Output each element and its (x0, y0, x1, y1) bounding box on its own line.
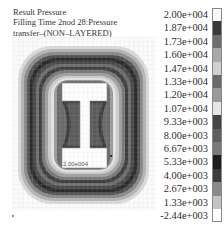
legend-swatch (212, 209, 222, 222)
legend-swatch (212, 88, 222, 101)
legend-swatch (212, 35, 222, 48)
legend-row: 9.33e+003 (144, 115, 224, 128)
legend-row: 6.67e+003 (144, 142, 224, 155)
legend-swatch (212, 142, 222, 155)
legend-row: 1.87e+004 (144, 21, 224, 34)
legend-swatch (212, 115, 222, 128)
legend-row: 1.33e+004 (144, 75, 224, 88)
legend-swatch (212, 129, 222, 142)
legend-row: 1.60e+004 (144, 48, 224, 61)
legend-swatch (212, 62, 222, 75)
node-marker (110, 155, 112, 157)
legend-row: 2.00e+004 (144, 8, 224, 21)
legend-swatch (212, 182, 222, 195)
legend-row: 1.20e+004 (144, 88, 224, 101)
mesh-overlay (12, 37, 156, 210)
legend-row: 2.67e+003 (144, 182, 224, 195)
legend-row: 4.00e+003 (144, 169, 224, 182)
legend-swatch (212, 75, 222, 88)
legend-swatch (212, 102, 222, 115)
legend-row: 5.33e+003 (144, 155, 224, 168)
legend-row: 1.33e+003 (144, 196, 224, 209)
legend-swatch (212, 21, 222, 34)
legend-row: 1.73e+004 (144, 35, 224, 48)
legend-swatch (212, 48, 222, 61)
annotation-label: 2.00e004 (63, 161, 88, 168)
legend-row: 1.47e+004 (144, 62, 224, 75)
legend-row: -2.44e+003 (144, 209, 224, 222)
legend-swatch (212, 169, 222, 182)
legend-swatch (212, 155, 222, 168)
legend-row: 8.00e+003 (144, 129, 224, 142)
origin-marker (12, 215, 14, 217)
legend-row: 1.07e+004 (144, 102, 224, 115)
legend-swatch (212, 8, 222, 21)
legend-swatch (212, 196, 222, 209)
